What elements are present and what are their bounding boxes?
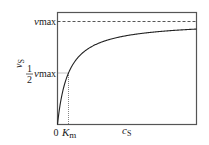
velocity-curve bbox=[58, 29, 197, 124]
half-fraction-denominator: 2 bbox=[27, 74, 32, 85]
michaelis-menten-diagram: vmax 1 2 vmax vS 0 Km cS bbox=[0, 0, 209, 145]
plot-frame bbox=[58, 13, 197, 125]
half-vmax-label: vmax bbox=[34, 67, 56, 79]
vmax-label: vmax bbox=[34, 15, 56, 27]
origin-label: 0 bbox=[54, 127, 59, 138]
y-axis-label: vS bbox=[13, 59, 26, 68]
x-axis-label: cS bbox=[122, 124, 131, 138]
half-fraction-numerator: 1 bbox=[27, 63, 32, 74]
km-label: Km bbox=[61, 126, 76, 140]
